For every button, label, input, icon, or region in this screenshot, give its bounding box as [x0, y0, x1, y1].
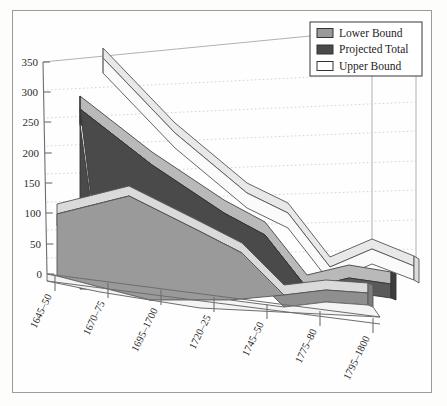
x-label-1670-75: 1670–75 [81, 299, 107, 337]
y-tick-50: 50 [30, 238, 42, 250]
projected-total-end-cap [391, 272, 396, 300]
chart-legend: Lower Bound Projected Total Upper Bound [310, 22, 422, 76]
x-label-1645-50: 1645–50 [28, 292, 54, 330]
y-tick-250: 250 [23, 116, 40, 128]
x-label-1695-1700: 1695–1700 [129, 306, 160, 353]
x-label-1745-50: 1745–50 [240, 320, 266, 358]
legend-label-lower-bound: Lower Bound [339, 27, 403, 39]
legend-label-upper-bound: Upper Bound [339, 60, 402, 73]
legend-label-projected-total: Projected Total [339, 43, 409, 56]
lower-bound-end-cap [368, 283, 373, 307]
y-tick-300: 300 [22, 86, 39, 98]
y-tick-150: 150 [24, 177, 41, 189]
y-tick-200: 200 [23, 147, 40, 159]
upper-bound-end-cap [414, 256, 419, 283]
legend-swatch-lower-bound [317, 29, 333, 38]
x-label-1720-25: 1720–25 [187, 313, 213, 351]
y-axis: 350 300 250 200 150 100 50 0 [22, 56, 55, 280]
legend-swatch-projected-total [317, 45, 333, 54]
legend-swatch-upper-bound [317, 62, 333, 71]
y-tick-100: 100 [25, 207, 42, 219]
y-tick-0: 0 [37, 268, 43, 280]
chart-canvas: 350 300 250 200 150 100 50 0 [0, 0, 447, 406]
x-label-1795-1800: 1795–1800 [341, 334, 372, 381]
x-label-1775-80: 1775–80 [293, 327, 319, 365]
chart-figure: 350 300 250 200 150 100 50 0 [0, 0, 447, 406]
y-tick-350: 350 [22, 56, 39, 68]
